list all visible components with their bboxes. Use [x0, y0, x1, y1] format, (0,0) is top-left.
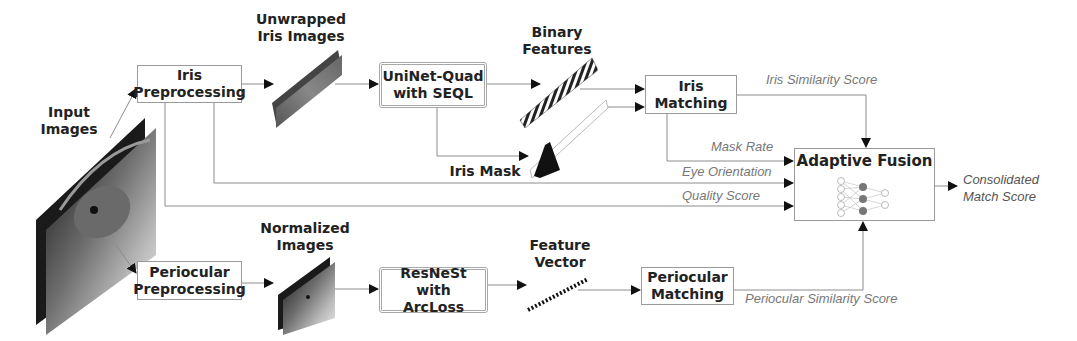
periocular-matching-box: Periocular Matching: [641, 267, 734, 305]
iris-mask-label: Iris Mask: [449, 163, 521, 180]
normalized-images: [278, 257, 335, 335]
input-eye-images: [36, 118, 156, 335]
normalized-images-label: Normalized Images: [255, 220, 355, 254]
eye-orientation-label: Eye Orientation: [682, 164, 772, 179]
unwrapped-iris-images: [272, 50, 342, 128]
unwrapped-iris-images-label: Unwrapped Iris Images: [246, 11, 356, 45]
neural-network-icon: [835, 177, 895, 219]
uninet-quad-box: UniNet-Quad with SEQL: [379, 62, 487, 108]
adaptive-fusion-box: Adaptive Fusion: [794, 148, 935, 221]
iris-periocular-pipeline-diagram: Input Images Unwrapped Iris Images Binar…: [0, 0, 1077, 341]
periocular-preprocessing-box: Periocular Preprocessing: [137, 261, 242, 300]
consolidated-match-score-label: Consolidated Match Score: [963, 171, 1039, 205]
feature-vector-label: Feature Vector: [520, 237, 600, 271]
quality-score-label: Quality Score: [682, 188, 760, 203]
iris-similarity-score-label: Iris Similarity Score: [766, 72, 877, 87]
binary-features-label: Binary Features: [517, 24, 597, 58]
feature-vector-image: [528, 279, 588, 310]
resnest-box: ResNeSt with ArcLoss: [379, 267, 488, 313]
input-images-label: Input Images: [34, 104, 104, 138]
periocular-similarity-score-label: Periocular Similarity Score: [745, 291, 897, 306]
adaptive-fusion-title: Adaptive Fusion: [795, 153, 934, 170]
mask-rate-label: Mask Rate: [711, 139, 773, 154]
iris-matching-box: Iris Matching: [645, 75, 737, 114]
iris-preprocessing-box: Iris Preprocessing: [137, 65, 242, 103]
